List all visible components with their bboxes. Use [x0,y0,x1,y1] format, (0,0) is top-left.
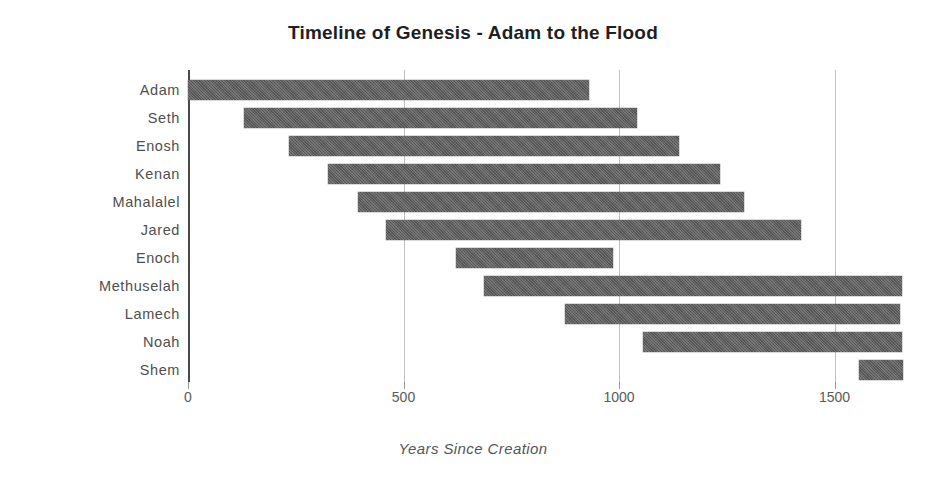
y-axis-label-shem: Shem [140,362,180,378]
bar-kenan [328,164,720,184]
x-tick-label-1000: 1000 [603,389,634,405]
x-tick-label-0: 0 [184,389,192,405]
y-axis-label-mahalalel: Mahalalel [113,194,180,210]
y-axis-label-noah: Noah [143,334,180,350]
bar-seth [244,108,637,128]
y-axis-line [188,70,190,382]
chart-container: Timeline of Genesis - Adam to the Flood … [0,0,946,482]
x-tick-mark-500 [404,382,405,389]
bar-jared [386,220,801,240]
bar-methuselah [484,276,902,296]
y-axis-label-jared: Jared [141,222,180,238]
y-axis-label-enoch: Enoch [136,250,180,266]
y-axis-label-seth: Seth [148,110,180,126]
bar-adam [188,80,589,100]
bar-shem [859,360,902,380]
bar-noah [643,332,902,352]
x-tick-mark-1000 [619,382,620,389]
x-tick-label-500: 500 [392,389,415,405]
x-tick-mark-0 [188,382,189,389]
bar-lamech [565,304,900,324]
bar-enosh [289,136,679,156]
bar-mahalalel [358,192,744,212]
bar-enoch [456,248,613,268]
x-tick-label-1500: 1500 [819,389,850,405]
y-axis-label-kenan: Kenan [135,166,180,182]
y-axis-label-adam: Adam [140,82,180,98]
y-axis-label-enosh: Enosh [136,138,180,154]
y-axis-label-lamech: Lamech [125,306,180,322]
x-axis-title: Years Since Creation [0,440,946,457]
y-axis-label-methuselah: Methuselah [99,278,180,294]
plot-area: 050010001500 AdamSethEnoshKenanMahalalel… [0,0,946,482]
x-tick-mark-1500 [835,382,836,389]
